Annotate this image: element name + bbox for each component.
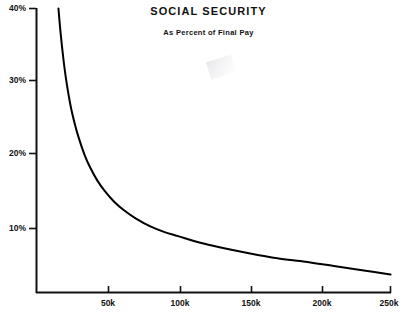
- x-tick-label-250k: 250k: [369, 298, 409, 308]
- chart-plot-area: [0, 0, 417, 317]
- y-tick-label-30: 30%: [0, 75, 26, 85]
- y-tick-label-20: 20%: [0, 148, 26, 158]
- x-tick-label-150k: 150k: [231, 298, 271, 308]
- social-security-chart: SOCIAL SECURITY As Percent of Final Pay …: [0, 0, 417, 317]
- data-series-line: [58, 9, 390, 275]
- x-tick-label-100k: 100k: [160, 298, 200, 308]
- y-tick-label-40: 40%: [0, 3, 26, 13]
- y-tick-label-10: 10%: [0, 223, 26, 233]
- x-tick-label-200k: 200k: [302, 298, 342, 308]
- x-tick-label-50k: 50k: [88, 298, 128, 308]
